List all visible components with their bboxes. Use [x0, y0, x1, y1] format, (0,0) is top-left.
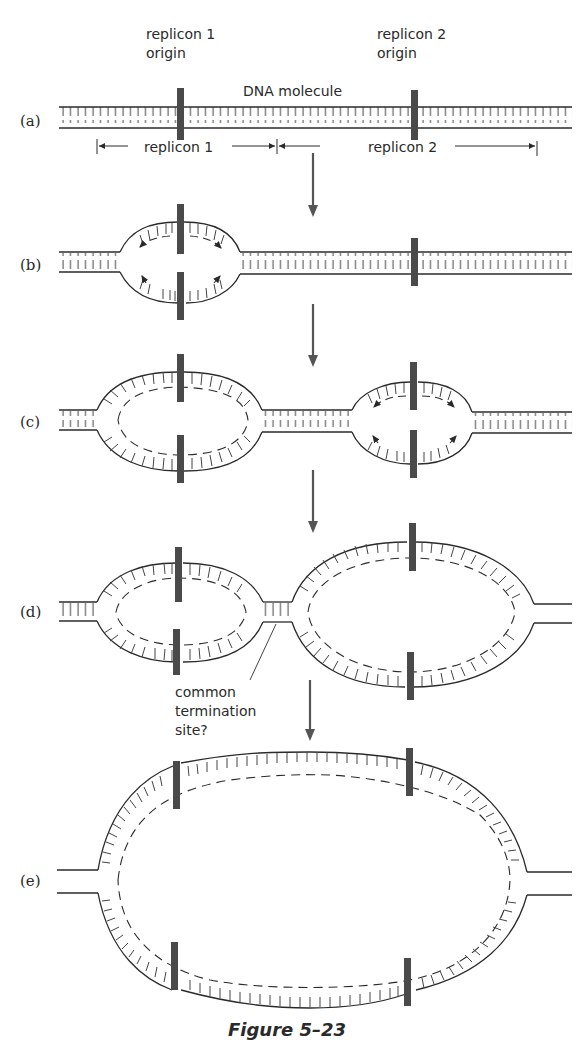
- termination-label-line3: site?: [175, 722, 208, 738]
- origin1-label-line2: origin: [146, 45, 186, 61]
- replicon2-origin-bar: [410, 362, 417, 410]
- arrow-head-icon: [308, 355, 318, 367]
- replicon2-origin-bar: [411, 238, 418, 286]
- dna-molecule-label: DNA molecule: [243, 83, 342, 99]
- replicon1-origin-bar: [177, 88, 184, 140]
- replicon1-origin-bar: [177, 354, 184, 402]
- replicon1-origin-bar: [177, 435, 184, 483]
- termination-pointer: [250, 624, 276, 680]
- origin2-label-line2: origin: [377, 45, 417, 61]
- arrow-head-icon: [308, 521, 318, 533]
- replicon1-origin-bar: [173, 629, 180, 675]
- replicon1-origin-bar: [175, 547, 182, 602]
- panel-label-c: (c): [20, 413, 40, 431]
- replicon2-origin-bar: [406, 748, 413, 796]
- panel-label-e: (e): [20, 872, 41, 890]
- replicon2-origin-bar: [410, 430, 417, 478]
- origin1-label-line1: replicon 1: [146, 26, 215, 42]
- replicon2-origin-bar: [411, 90, 418, 140]
- panel-label-d: (d): [20, 603, 41, 621]
- termination-label-line2: termination: [175, 703, 256, 719]
- base-pairs: [59, 107, 572, 123]
- replicon1-origin-bar: [171, 942, 178, 990]
- arrow-head-icon: [308, 205, 318, 217]
- replicon1-origin-bar: [177, 272, 184, 320]
- figure-caption: Figure 5–23: [228, 1019, 346, 1040]
- panel-label-a: (a): [20, 112, 41, 130]
- panel-b: (b): [20, 204, 572, 320]
- replicon1-span-label: replicon 1: [144, 139, 213, 155]
- arrow-head-icon: [305, 729, 315, 741]
- panel-a: (a) replicon 1 origin replicon 2 origin …: [20, 26, 572, 156]
- replicon-diagram: (a) replicon 1 origin replicon 2 origin …: [0, 0, 588, 1042]
- panel-c: (c): [20, 354, 572, 483]
- replicon2-span-label: replicon 2: [368, 139, 437, 155]
- panel-label-b: (b): [20, 256, 41, 274]
- replicon2-origin-bar: [407, 652, 414, 700]
- origin2-label-line1: replicon 2: [377, 26, 446, 42]
- replicon2-origin-bar: [404, 958, 411, 1006]
- panel-d: (d): [20, 523, 572, 738]
- replicon1-origin-bar: [173, 761, 180, 809]
- termination-label-line1: common: [175, 684, 236, 700]
- replicon2-origin-bar: [409, 523, 416, 571]
- panel-e: (e): [20, 748, 572, 1008]
- replicon1-origin-bar: [177, 204, 184, 254]
